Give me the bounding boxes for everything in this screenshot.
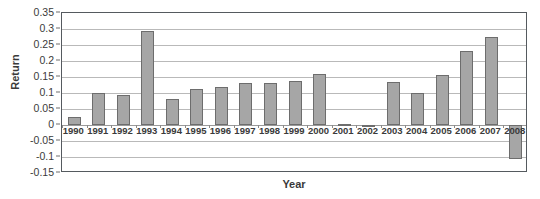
bar: [411, 93, 424, 125]
y-tick-label: 0.35: [34, 6, 54, 18]
bar: [68, 117, 81, 125]
y-tick-mark: [56, 140, 60, 141]
y-tick-mark: [56, 124, 60, 125]
bar-series: [62, 13, 526, 171]
y-tick-label: 0.05: [34, 102, 54, 114]
y-tick-label: 0.25: [34, 38, 54, 50]
x-tick-label: 1995: [185, 125, 206, 136]
y-tick-label: -0.15: [30, 166, 54, 178]
x-tick-label: 1999: [283, 125, 304, 136]
x-tick-label: 1996: [210, 125, 231, 136]
bar: [387, 82, 400, 125]
bar: [190, 89, 203, 125]
x-tick-label: 2000: [308, 125, 329, 136]
x-tick-label: 2006: [455, 125, 476, 136]
bar: [215, 87, 228, 125]
x-tick-label: 2002: [357, 125, 378, 136]
y-tick-mark: [56, 172, 60, 173]
x-tick-label: 2001: [332, 125, 353, 136]
x-tick-label: 2007: [480, 125, 501, 136]
y-tick-label: 0.15: [34, 70, 54, 82]
bar: [141, 31, 154, 125]
x-tick-label: 2005: [431, 125, 452, 136]
x-tick-label: 1990: [63, 125, 84, 136]
y-tick-mark: [56, 60, 60, 61]
x-tick-label: 1994: [161, 125, 182, 136]
bar: [485, 37, 498, 125]
bar: [460, 51, 473, 125]
y-tick-mark: [56, 92, 60, 93]
y-tick-mark: [56, 108, 60, 109]
y-tick-mark: [56, 44, 60, 45]
bar: [117, 95, 130, 125]
x-axis-tick-labels: 1990199119921993199419951996199719981999…: [61, 125, 527, 139]
chart-figure: Return 0.350.30.250.20.150.10.050-0.05-0…: [0, 0, 540, 199]
y-tick-mark: [56, 76, 60, 77]
x-tick-label: 1991: [87, 125, 108, 136]
x-tick-label: 1993: [136, 125, 157, 136]
bar: [239, 83, 252, 125]
y-tick-label: 0.2: [39, 54, 54, 66]
x-tick-label: 2003: [382, 125, 403, 136]
bar: [313, 74, 326, 125]
x-tick-label: 2008: [504, 125, 525, 136]
bar: [166, 99, 179, 125]
y-tick-label: 0.3: [39, 22, 54, 34]
y-tick-mark: [56, 28, 60, 29]
plot-area: [61, 12, 527, 172]
y-tick-label: -0.1: [36, 150, 54, 162]
y-tick-label: 0: [48, 118, 54, 130]
bar: [436, 75, 449, 125]
x-tick-label: 2004: [406, 125, 427, 136]
y-axis-tick-labels: 0.350.30.250.20.150.10.050-0.05-0.1-0.15: [4, 0, 58, 199]
y-tick-mark: [56, 12, 60, 13]
y-tick-label: -0.05: [30, 134, 54, 146]
x-axis-title: Year: [61, 178, 527, 190]
x-tick-label: 1997: [234, 125, 255, 136]
y-tick-label: 0.1: [39, 86, 54, 98]
x-tick-label: 1992: [112, 125, 133, 136]
bar: [92, 93, 105, 125]
y-tick-mark: [56, 156, 60, 157]
bar: [289, 81, 302, 125]
bar: [264, 83, 277, 125]
x-tick-label: 1998: [259, 125, 280, 136]
